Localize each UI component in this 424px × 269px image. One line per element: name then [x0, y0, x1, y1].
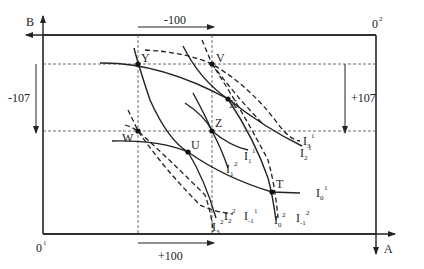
label-U: U — [191, 138, 200, 152]
point-W — [135, 128, 140, 133]
svg-text:2: 2 — [232, 207, 236, 215]
point-V — [209, 61, 214, 66]
svg-text:2: 2 — [228, 217, 232, 225]
label-T: T — [276, 177, 284, 191]
curve-label-Im1-2: I -1 2 — [296, 209, 310, 227]
label-W: W — [122, 131, 134, 145]
origin-1: 0 1 — [36, 239, 47, 255]
svg-text:0: 0 — [320, 194, 324, 202]
label-X: X — [229, 97, 238, 111]
point-Y — [135, 61, 140, 66]
svg-text:2: 2 — [304, 154, 308, 162]
svg-text:1: 1 — [324, 184, 328, 192]
curve-label-I0-2: I 0 2 — [274, 211, 286, 229]
svg-text:-1: -1 — [300, 219, 306, 227]
svg-text:1: 1 — [248, 157, 252, 165]
svg-text:1: 1 — [308, 144, 312, 152]
svg-text:1: 1 — [311, 132, 315, 140]
edgeworth-box-diagram: Y V X Z W U T B A 0 1 0 2 -100 +100 -107… — [0, 0, 424, 269]
axis-label-a: A — [384, 242, 393, 256]
label-V: V — [216, 51, 225, 65]
shift-label-bottom: +100 — [158, 249, 183, 263]
axis-label-b: B — [26, 15, 34, 29]
curve-label-I1-2: I 1 2 — [226, 160, 238, 178]
box-frame — [43, 35, 376, 234]
curve-label-Im1-1: I -1 1 — [244, 207, 258, 225]
label-Z: Z — [215, 116, 222, 130]
svg-text:0: 0 — [36, 241, 42, 255]
equilibrium-points — [135, 61, 274, 194]
svg-text:2: 2 — [220, 218, 224, 226]
shift-label-right: +107 — [351, 91, 376, 105]
svg-text:2: 2 — [234, 160, 238, 168]
svg-text:-1: -1 — [248, 217, 254, 225]
origin-2: 0 2 — [372, 15, 383, 31]
svg-text:2: 2 — [306, 209, 310, 217]
label-Y: Y — [141, 51, 150, 65]
curve-label-I2-2: I 2 2 — [224, 207, 236, 225]
svg-text:2: 2 — [282, 211, 286, 219]
curve-label-I0-1: I 0 1 — [316, 184, 328, 202]
point-T — [269, 189, 274, 194]
svg-text:3: 3 — [216, 228, 220, 236]
curve-label-I1-1: I 1 1 — [244, 147, 256, 165]
svg-text:1: 1 — [254, 207, 258, 215]
svg-text:1: 1 — [252, 147, 256, 155]
svg-text:1: 1 — [43, 239, 47, 247]
curve-I0-1 — [112, 141, 300, 193]
curve-I2-2 — [134, 48, 216, 218]
point-U — [185, 149, 190, 154]
axis-arrows — [26, 16, 395, 254]
point-Z — [209, 128, 214, 133]
svg-text:0: 0 — [372, 17, 378, 31]
svg-text:2: 2 — [379, 15, 383, 23]
svg-text:0: 0 — [278, 221, 282, 229]
shift-label-top: -100 — [164, 13, 186, 27]
shift-label-left: -107 — [8, 91, 30, 105]
curve-I0-2 — [183, 46, 276, 220]
guide-lines — [43, 35, 376, 234]
svg-text:1: 1 — [230, 170, 234, 178]
